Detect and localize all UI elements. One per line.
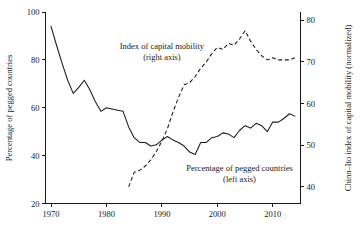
right-tick-label: 60 [307, 99, 316, 109]
right-tick-label: 80 [307, 15, 316, 25]
x-tick-label: 2000 [209, 209, 226, 219]
left-tick-label: 100 [27, 7, 40, 17]
pegged-countries-annotation: Percentage of pegged countries [186, 163, 292, 173]
x-tick-label: 1970 [43, 209, 60, 219]
left-axis-title: Percentage of pegged countries [4, 55, 14, 161]
x-tick-label: 2010 [264, 209, 281, 219]
x-tick-label: 1990 [153, 209, 170, 219]
capital-mobility-annotation-sub: (right axis) [143, 52, 181, 62]
left-tick-label: 20 [31, 199, 40, 209]
right-tick-label: 40 [307, 182, 316, 192]
chart-figure: 20406080100 4050607080 19701980199020002… [0, 0, 361, 240]
right-axis-title: Chinn–Ito index of capital mobility (nor… [343, 25, 353, 192]
right-axis-ticks: 4050607080 [301, 15, 316, 192]
left-tick-label: 60 [31, 103, 40, 113]
right-tick-label: 70 [307, 57, 316, 67]
right-tick-label: 50 [307, 140, 316, 150]
x-axis-ticks: 19701980199020002010 [43, 204, 282, 219]
pegged-countries-annotation-sub: (left axis) [223, 174, 256, 184]
capital-mobility-annotation: Index of capital mobility [120, 41, 205, 51]
x-tick-label: 1980 [98, 209, 115, 219]
left-axis-ticks: 20406080100 [27, 7, 46, 209]
chart-container: 20406080100 4050607080 19701980199020002… [0, 0, 361, 240]
chart-annotations: Index of capital mobility(right axis)Per… [120, 41, 293, 184]
left-tick-label: 80 [31, 55, 40, 65]
left-tick-label: 40 [31, 151, 40, 161]
